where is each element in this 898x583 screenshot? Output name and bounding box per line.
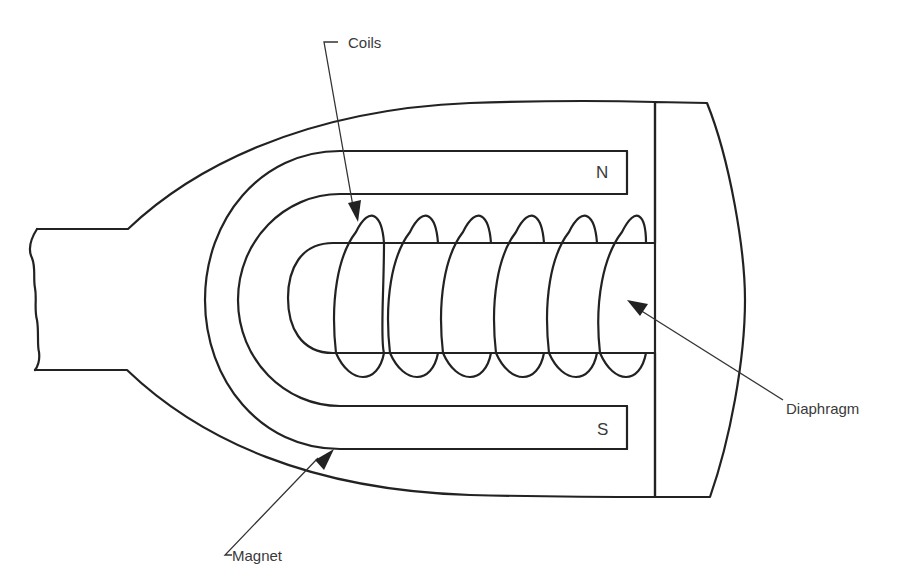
housing-outline (30, 101, 745, 497)
magnet-label: Magnet (232, 547, 283, 564)
magnet-callout: Magnet (225, 449, 334, 564)
diaphragm-callout: Diaphragm (627, 300, 859, 417)
receiver-diagram: N S Coils Diaphragm Magnet (0, 0, 898, 583)
north-pole-label: N (596, 163, 608, 182)
diaphragm-label: Diaphragm (786, 400, 859, 417)
u-magnet (205, 151, 627, 449)
south-pole-label: S (597, 420, 608, 439)
magnet-arrow-icon (315, 449, 334, 470)
coils-label: Coils (348, 34, 381, 51)
coils-arrow-icon (348, 200, 361, 222)
